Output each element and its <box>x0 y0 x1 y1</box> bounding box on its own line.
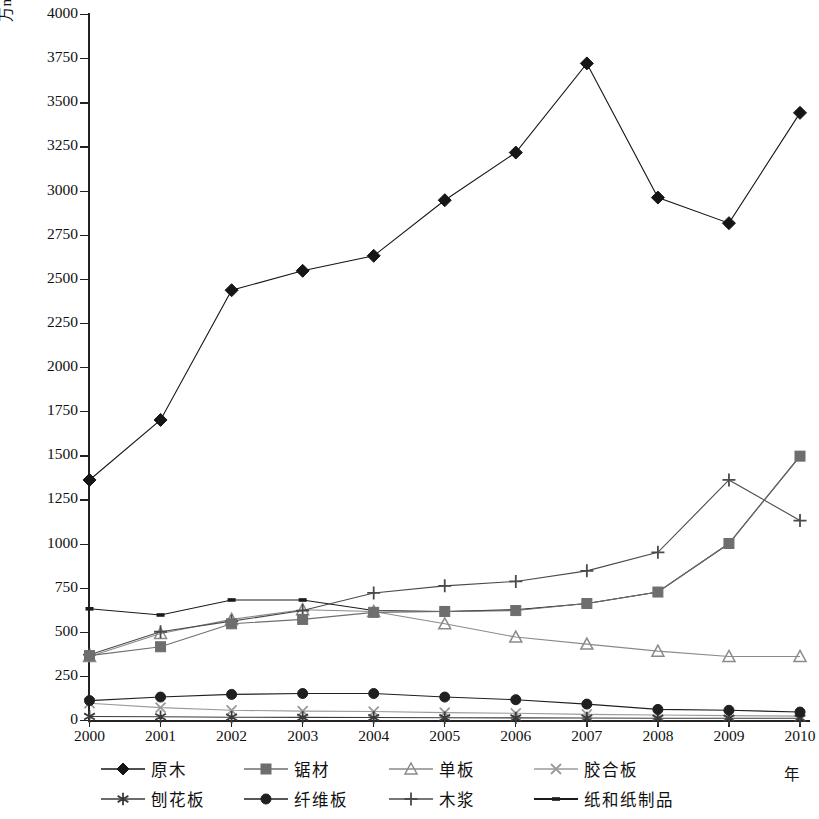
legend-label: 单板 <box>439 757 475 781</box>
y-axis-tick-label-text: 4000 <box>47 4 78 22</box>
data-point-dash <box>228 598 236 602</box>
data-point-triangle <box>510 631 522 642</box>
legend-marker-plus <box>388 791 434 807</box>
legend-item-刨花板[interactable]: 刨花板 <box>100 787 205 811</box>
legend-item-纸和纸制品[interactable]: 纸和纸制品 <box>533 787 674 811</box>
legend-symbol <box>388 761 434 777</box>
y-axis-line <box>88 13 90 721</box>
data-point-diamond <box>438 194 451 207</box>
x-axis-tick <box>799 720 800 727</box>
y-axis-tick-label-text: 1250 <box>47 489 78 507</box>
data-point-square <box>795 451 805 461</box>
x-axis-tick <box>160 720 161 727</box>
legend-marker-square <box>243 761 289 777</box>
x-axis-tick <box>728 720 729 727</box>
y-axis-tick <box>80 235 88 236</box>
data-point-square <box>511 606 521 616</box>
data-point-circle <box>511 695 521 705</box>
data-point-dash <box>725 542 733 546</box>
data-point-plus <box>225 615 238 628</box>
legend-label: 胶合板 <box>584 757 638 781</box>
x-axis-tick-label: 2008 <box>627 727 689 745</box>
y-axis-tick-label-text: 0 <box>70 710 78 728</box>
x-axis-tick <box>657 720 658 727</box>
series-6 <box>83 473 807 661</box>
data-point-diamond <box>509 146 522 159</box>
legend-item-锯材[interactable]: 锯材 <box>243 757 330 781</box>
series-1 <box>85 451 806 660</box>
data-point-triangle <box>439 618 451 629</box>
data-point-diamond <box>722 217 735 230</box>
data-point-dash <box>583 602 591 606</box>
y-axis-tick <box>80 323 88 324</box>
data-point-square <box>440 606 450 616</box>
data-point-square <box>724 539 734 549</box>
legend-symbol <box>388 791 434 807</box>
data-point-dash <box>299 598 307 602</box>
x-axis-tick-label: 2010 <box>769 727 819 745</box>
y-axis-tick-label-text: 2250 <box>47 313 78 331</box>
data-point-circle <box>156 692 166 702</box>
data-point-plus <box>651 546 664 559</box>
y-axis-tick <box>80 14 88 15</box>
y-axis-tick <box>80 544 88 545</box>
y-axis-tick <box>80 411 88 412</box>
data-point-diamond <box>580 57 593 70</box>
y-axis-tick-label-text: 3250 <box>47 136 78 154</box>
data-point-triangle <box>794 650 806 661</box>
series-7 <box>86 454 805 616</box>
legend-marker-cross-x <box>533 761 579 777</box>
legend-label: 刨花板 <box>151 787 205 811</box>
data-point-cross-x <box>227 705 237 715</box>
data-point-diamond <box>117 763 129 775</box>
data-point-dash <box>441 610 449 614</box>
legend-item-纤维板[interactable]: 纤维板 <box>243 787 348 811</box>
data-point-square <box>369 607 379 617</box>
x-axis-line <box>88 720 810 722</box>
y-axis-tick-label-text: 2500 <box>47 269 78 287</box>
y-axis-label: 万m3, 万t <box>0 0 15 22</box>
data-point-dash <box>796 454 804 458</box>
data-point-diamond <box>154 413 167 426</box>
data-point-plus <box>367 586 380 599</box>
legend-marker-circle <box>243 791 289 807</box>
data-point-triangle <box>155 628 167 639</box>
legend-item-单板[interactable]: 单板 <box>388 757 475 781</box>
y-axis-tick-label-text: 500 <box>55 622 78 640</box>
x-axis-tick <box>89 720 90 727</box>
series-line <box>90 456 801 615</box>
y-axis-tick-label-text: 2000 <box>47 357 78 375</box>
data-point-plus <box>405 793 418 806</box>
x-axis-tick <box>515 720 516 727</box>
data-point-diamond <box>651 191 664 204</box>
legend-item-胶合板[interactable]: 胶合板 <box>533 757 638 781</box>
y-axis-tick-label-text: 3500 <box>47 92 78 110</box>
y-axis-tick <box>80 58 88 59</box>
data-point-triangle <box>297 604 309 615</box>
legend-item-木浆[interactable]: 木浆 <box>388 787 475 811</box>
data-point-square <box>227 619 237 629</box>
y-axis-tick <box>80 146 88 147</box>
series-0 <box>83 57 807 487</box>
y-axis-tick <box>80 279 88 280</box>
data-point-plus <box>296 604 309 617</box>
data-point-triangle <box>581 638 593 649</box>
data-point-triangle <box>226 613 238 624</box>
legend-row-1: 原木锯材单板胶合板 <box>0 757 819 787</box>
series-line <box>90 703 801 716</box>
data-point-plus <box>509 575 522 588</box>
series-line <box>90 480 801 655</box>
legend-item-原木[interactable]: 原木 <box>100 757 187 781</box>
legend-marker-diamond <box>100 761 146 777</box>
data-point-circle <box>653 704 663 714</box>
data-point-circle <box>795 707 805 717</box>
data-point-cross-x <box>653 710 663 720</box>
data-point-diamond <box>225 284 238 297</box>
y-axis-tick-label-text: 2750 <box>47 225 78 243</box>
x-axis-tick-label: 2005 <box>414 727 476 745</box>
data-point-dash <box>552 797 560 801</box>
data-point-circle <box>298 689 308 699</box>
data-point-triangle <box>723 650 735 661</box>
legend-symbol <box>100 791 146 807</box>
y-axis-tick-label-text: 3000 <box>47 181 78 199</box>
